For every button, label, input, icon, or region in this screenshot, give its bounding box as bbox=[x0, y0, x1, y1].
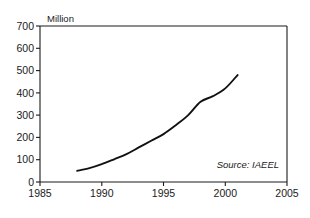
y-tick-label: 500 bbox=[16, 64, 34, 76]
y-tick-label: 200 bbox=[16, 131, 34, 143]
x-tick-label: 2000 bbox=[214, 187, 238, 199]
y-tick-label: 600 bbox=[16, 42, 34, 54]
y-tick-label: 400 bbox=[16, 87, 34, 99]
y-axis-label: Million bbox=[47, 13, 74, 24]
y-tick-label: 100 bbox=[16, 153, 34, 165]
x-tick-label: 1985 bbox=[28, 187, 52, 199]
y-tick-label: 0 bbox=[28, 176, 34, 188]
chart-figure: 0 100 200 300 400 500 600 700 1985 1990 … bbox=[0, 0, 310, 218]
source-annotation: Source: IAEEL bbox=[217, 159, 279, 170]
x-tick-label: 1995 bbox=[152, 187, 176, 199]
y-tick-label: 700 bbox=[16, 20, 34, 32]
x-tick-label: 1990 bbox=[90, 187, 114, 199]
x-tick-label: 2005 bbox=[275, 187, 299, 199]
y-tick-label: 300 bbox=[16, 109, 34, 121]
line-chart: 0 100 200 300 400 500 600 700 1985 1990 … bbox=[0, 0, 310, 218]
chart-background bbox=[0, 0, 310, 218]
